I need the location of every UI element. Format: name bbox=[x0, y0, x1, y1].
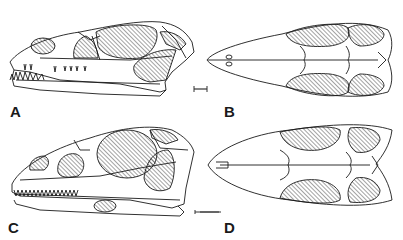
panel-label-b: B bbox=[224, 104, 235, 119]
panel-label-a: A bbox=[10, 104, 21, 119]
panel-label-d: D bbox=[224, 220, 235, 235]
skull-a-lateral bbox=[10, 22, 194, 96]
skull-figure bbox=[0, 0, 403, 240]
panel-label-c: C bbox=[8, 220, 19, 235]
skull-c-lateral bbox=[12, 127, 194, 216]
skull-b-dorsal bbox=[207, 23, 392, 96]
skull-d-dorsal bbox=[208, 125, 392, 206]
